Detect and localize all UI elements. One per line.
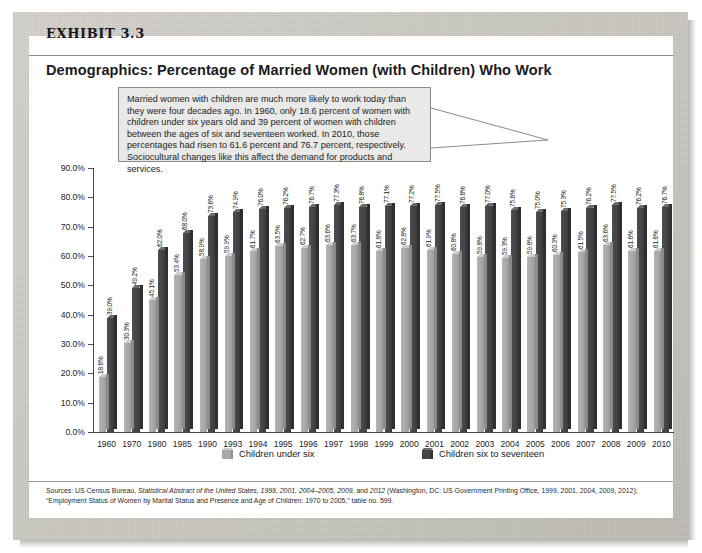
frame-shadow-right — [688, 20, 696, 540]
bar-children-under-six[interactable] — [628, 251, 635, 432]
bar-children-under-six[interactable] — [99, 377, 106, 432]
bar-side — [316, 204, 319, 429]
bar-children-under-six[interactable] — [225, 256, 232, 432]
bar-value-label: 77.5% — [610, 184, 617, 202]
bar-side — [459, 251, 462, 429]
bar-side — [257, 248, 260, 429]
bar-side — [585, 249, 588, 429]
bar-children-under-six[interactable] — [427, 250, 434, 432]
bar-children-under-six[interactable] — [553, 255, 560, 432]
bar-side — [543, 209, 546, 429]
bar-side — [165, 247, 168, 429]
bar-side — [392, 203, 395, 429]
y-axis-tick-label: 70.0% — [61, 222, 85, 232]
bar-value-label: 74.9% — [232, 192, 239, 210]
bar-face — [351, 245, 358, 432]
bar-side — [358, 242, 361, 429]
y-axis-tick — [88, 168, 93, 169]
bar-side — [333, 242, 336, 429]
bar-side — [131, 340, 134, 429]
y-axis-tick — [88, 315, 93, 316]
bar-value-label: 18.6% — [97, 357, 104, 375]
bar-value-label: 77.2% — [408, 185, 415, 203]
bar-value-label: 39.0% — [106, 297, 113, 315]
y-axis-tick — [88, 432, 93, 433]
bar-face — [275, 246, 282, 432]
bar-value-label: 77.5% — [434, 184, 441, 202]
exhibit-page: EXHIBIT 3.3 Demographics: Percentage of … — [0, 0, 702, 553]
bar-children-under-six[interactable] — [654, 251, 661, 432]
legend-item[interactable]: Children six to seventeen — [422, 448, 544, 459]
bar-face — [427, 250, 434, 432]
bar-children-under-six[interactable] — [502, 258, 509, 432]
bar-children-under-six[interactable] — [578, 252, 585, 432]
frame-shadow-bottom — [20, 540, 688, 548]
bar-children-under-six[interactable] — [124, 343, 131, 432]
bar-face — [376, 251, 383, 432]
bar-group: 59.9%74.9% — [220, 168, 245, 432]
bar-face — [149, 300, 156, 432]
bar-group: 61.7%76.0% — [245, 168, 270, 432]
bar-group: 59.8%77.0% — [472, 168, 497, 432]
bar-side — [484, 254, 487, 429]
y-axis-tick-label: 0.0% — [65, 427, 85, 437]
bar-group: 45.1%62.0% — [144, 168, 169, 432]
bar-value-label: 77.3% — [333, 185, 340, 203]
bar-children-under-six[interactable] — [301, 248, 308, 432]
y-axis-tick-label: 90.0% — [61, 163, 85, 173]
bar-children-under-six[interactable] — [250, 251, 257, 432]
bar-value-label: 68.0% — [181, 212, 188, 230]
bar-group: 60.8%76.8% — [447, 168, 472, 432]
bar-value-label: 76.2% — [585, 188, 592, 206]
bar-value-label: 59.9% — [223, 236, 230, 254]
bar-value-label: 59.3% — [501, 237, 508, 255]
bar-group: 61.8%77.1% — [371, 168, 396, 432]
bar-side — [434, 247, 437, 429]
title-divider — [29, 55, 673, 56]
bar-value-label: 76.7% — [308, 186, 315, 204]
bar-group: 63.6%77.5% — [598, 168, 623, 432]
bar-value-label: 61.6% — [652, 231, 659, 249]
bar-value-label: 63.6% — [602, 225, 609, 243]
bar-children-under-six[interactable] — [376, 251, 383, 432]
bar-children-under-six[interactable] — [401, 248, 408, 432]
legend-item[interactable]: Children under six — [222, 448, 315, 459]
bar-value-label: 62.8% — [400, 227, 407, 245]
source-mid: and — [355, 487, 370, 494]
chart-plot-area: 0.0%10.0%20.0%30.0%40.0%50.0%60.0%70.0%8… — [47, 168, 675, 433]
bar-group: 53.4%68.0% — [170, 168, 195, 432]
bar-children-under-six[interactable] — [149, 300, 156, 432]
bar-group: 61.9%77.5% — [422, 168, 447, 432]
bar-children-under-six[interactable] — [351, 245, 358, 432]
bar-children-under-six[interactable] — [174, 275, 181, 432]
bar-children-under-six[interactable] — [275, 246, 282, 432]
bar-value-label: 76.2% — [635, 188, 642, 206]
bar-children-under-six[interactable] — [603, 245, 610, 432]
bar-side — [594, 205, 597, 429]
bar-face — [477, 257, 484, 432]
bar-value-label: 75.6% — [509, 190, 516, 208]
bar-value-label: 73.6% — [207, 195, 214, 213]
x-axis-line — [93, 432, 674, 433]
bar-group: 61.6%76.2% — [624, 168, 649, 432]
bar-side — [215, 213, 218, 429]
bar-children-under-six[interactable] — [200, 259, 207, 432]
y-axis-tick-label: 10.0% — [61, 398, 85, 408]
bar-value-label: 77.1% — [383, 185, 390, 203]
legend-swatch-icon — [222, 448, 233, 459]
bar-children-under-six[interactable] — [452, 254, 459, 432]
bar-side — [190, 230, 193, 429]
bar-value-label: 59.8% — [526, 236, 533, 254]
bar-side — [156, 297, 159, 429]
bar-value-label: 61.5% — [577, 231, 584, 249]
bar-group: 63.7%76.8% — [346, 168, 371, 432]
bar-value-label: 75.0% — [534, 191, 541, 209]
legend-label: Children six to seventeen — [439, 448, 544, 459]
bar-children-under-six[interactable] — [527, 257, 534, 432]
bar-face — [553, 255, 560, 432]
bar-children-under-six[interactable] — [477, 257, 484, 432]
bar-face — [326, 245, 333, 432]
bar-children-under-six[interactable] — [326, 245, 333, 432]
bar-side — [636, 248, 639, 429]
bar-side — [367, 204, 370, 429]
